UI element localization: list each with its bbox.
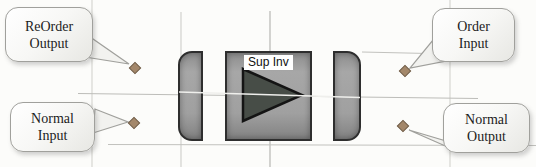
- callout-text-line: Normal: [31, 110, 74, 127]
- callout-normal-output[interactable]: Normal Output: [443, 103, 530, 153]
- callout-normal-input[interactable]: Normal Input: [10, 102, 95, 152]
- callout-text-line: Order: [457, 18, 490, 35]
- block-segment-right: [333, 51, 361, 141]
- callout-text-line: Output: [467, 128, 506, 145]
- callout-text-line: Output: [30, 35, 69, 52]
- block-label: Sup Inv: [244, 55, 293, 70]
- block-segment-left: [178, 51, 203, 141]
- flow-triangle-icon: [241, 66, 305, 124]
- callout-text-line: ReOrder: [25, 18, 73, 35]
- callout-reorder-output[interactable]: ReOrder Output: [5, 7, 93, 62]
- callout-tail-normal-input: [93, 109, 128, 133]
- model-canvas: Sup Inv ReOrder Output Normal Input Orde…: [0, 0, 536, 167]
- port-marker-normal-output[interactable]: [397, 120, 408, 131]
- grid-line-horizontal: [362, 52, 428, 54]
- port-marker-reorder-output[interactable]: [129, 62, 140, 73]
- callout-text-line: Input: [38, 127, 68, 144]
- callout-text-line: Normal: [465, 111, 508, 128]
- port-marker-normal-input[interactable]: [128, 117, 139, 128]
- callout-text-line: Input: [459, 35, 489, 52]
- port-marker-order-input[interactable]: [399, 65, 410, 76]
- callout-order-input[interactable]: Order Input: [432, 8, 515, 62]
